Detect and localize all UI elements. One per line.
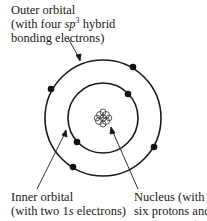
inner-label-line2: (with two 1s electrons) bbox=[11, 204, 126, 218]
inner-orbital-label: Inner orbital (with two 1s electrons) bbox=[11, 190, 126, 218]
nucleus bbox=[94, 109, 112, 127]
nucleus-label-line1: Nucleus (with bbox=[134, 190, 207, 204]
leader-lines bbox=[37, 38, 138, 189]
outer-orbital-label: Outer orbital (with four sp3 hybrid bond… bbox=[11, 3, 115, 45]
outer-label-line1: Outer orbital bbox=[11, 3, 115, 17]
inner-electrons bbox=[74, 91, 132, 146]
outer-label-line3: bonding electrons) bbox=[11, 31, 115, 45]
outer-label-line2: (with four sp3 hybrid bbox=[11, 17, 115, 31]
nucleus-label: Nucleus (with six protons and six neutro… bbox=[134, 190, 207, 221]
inner-label-line1: Inner orbital bbox=[11, 190, 126, 204]
outer-orbital bbox=[45, 60, 161, 176]
nucleus-label-line3: six neutrons) bbox=[134, 218, 207, 221]
nucleus-label-line2: six protons and bbox=[134, 204, 207, 218]
